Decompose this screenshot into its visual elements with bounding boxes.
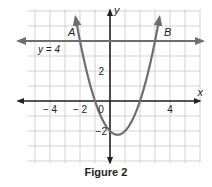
x-tick-label: 4 [167,104,173,115]
x-axis-label: x [197,86,204,98]
y-tick-label: 2 [98,66,104,77]
figure-caption: Figure 2 [0,166,212,178]
coordinate-graph: xy− 4− 2042−2ABy = 4 [0,0,212,187]
line-label-y-equals-4: y = 4 [37,44,60,55]
point-label-a: A [67,26,75,38]
parabola-curve [76,17,160,135]
x-tick-label: 0 [98,104,104,115]
y-tick-label: −2 [96,126,108,137]
point-label-b: B [164,26,171,38]
labels: xy− 4− 2042−2ABy = 4 [37,4,204,137]
y-axis-label: y [113,4,121,16]
grid-lines [28,10,201,164]
x-tick-label: − 2 [73,104,88,115]
axes [18,10,200,163]
x-tick-label: − 4 [43,104,58,115]
